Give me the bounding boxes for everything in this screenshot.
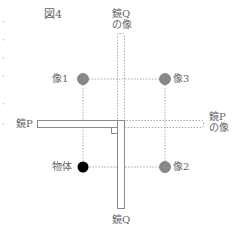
image3-point	[160, 74, 171, 85]
mirror-q-image-label-line1: 鏡Q	[112, 8, 130, 19]
object-point	[78, 162, 89, 173]
image3-label: 像3	[173, 73, 189, 84]
mirror-p	[38, 121, 124, 128]
figure-title: 図4	[44, 9, 62, 20]
mirror-q	[118, 121, 125, 209]
image2-point	[160, 162, 171, 173]
mirror-p-image-label-line1: 鏡P	[209, 111, 226, 122]
mirror-q-image-label-line2: の像	[112, 19, 132, 30]
mirror-corner	[118, 121, 124, 127]
object-label: 物体	[52, 161, 72, 172]
mirror-q-image	[118, 34, 125, 122]
image1-point	[78, 74, 89, 85]
mirror-p-image	[125, 121, 204, 128]
mirror-p-label: 鏡P	[16, 118, 33, 129]
right-angle-mark	[112, 128, 118, 134]
mirror-diagram	[0, 0, 242, 243]
image1-label: 像1	[52, 73, 68, 84]
mirror-p-image-label-line2: の像	[209, 122, 229, 133]
mirror-q-label: 鏡Q	[112, 214, 130, 225]
image2-label: 像2	[173, 161, 189, 172]
